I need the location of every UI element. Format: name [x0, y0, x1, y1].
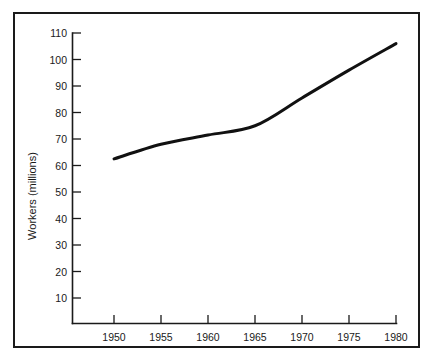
y-axis-ticks — [73, 33, 82, 298]
y-axis-title: Workers (millions) — [26, 152, 38, 240]
x-tick-label-1955: 1955 — [149, 331, 173, 343]
line-chart: 110 100 90 80 70 60 50 40 30 20 10 Worke… — [0, 0, 431, 364]
x-tick-label-1960: 1960 — [196, 331, 220, 343]
y-tick-label-50: 50 — [55, 186, 67, 198]
y-tick-label-100: 100 — [49, 54, 67, 66]
y-tick-label-90: 90 — [55, 80, 67, 92]
y-tick-label-70: 70 — [55, 133, 67, 145]
y-tick-label-60: 60 — [55, 160, 67, 172]
x-tick-label-1980: 1980 — [384, 331, 408, 343]
y-tick-label-10: 10 — [55, 292, 67, 304]
x-tick-label-1975: 1975 — [337, 331, 361, 343]
x-axis-tick-labels: 1950 1955 1960 1965 1970 1975 1980 — [102, 331, 408, 343]
y-tick-label-40: 40 — [55, 213, 67, 225]
y-axis-tick-labels: 110 100 90 80 70 60 50 40 30 20 10 — [49, 27, 67, 304]
x-axis-ticks — [114, 315, 396, 324]
figure-root: 110 100 90 80 70 60 50 40 30 20 10 Worke… — [0, 0, 431, 364]
y-tick-label-110: 110 — [50, 27, 67, 39]
data-series-line — [114, 44, 396, 159]
x-tick-label-1965: 1965 — [243, 331, 267, 343]
y-tick-label-80: 80 — [55, 107, 67, 119]
y-tick-label-30: 30 — [55, 239, 67, 251]
y-tick-label-20: 20 — [55, 266, 67, 278]
x-tick-label-1970: 1970 — [290, 331, 314, 343]
x-tick-label-1950: 1950 — [102, 331, 126, 343]
